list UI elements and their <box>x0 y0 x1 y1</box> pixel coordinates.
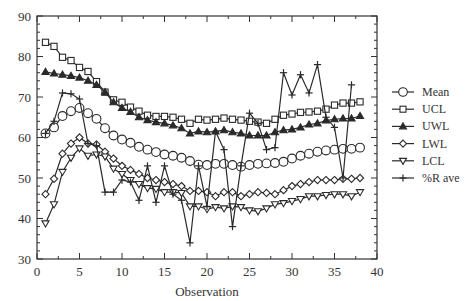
legend-item: UCL <box>392 102 446 116</box>
x-axis-title: Observation <box>175 284 239 299</box>
y-tick-label: 30 <box>18 252 31 267</box>
x-tick-label: 20 <box>201 264 214 279</box>
x-tick-label: 35 <box>328 264 341 279</box>
y-axis: 30405060708090 <box>18 9 377 267</box>
legend-label: Mean <box>422 85 449 99</box>
x-tick-label: 25 <box>243 264 256 279</box>
legend-label: UCL <box>422 102 446 116</box>
legend-item: LCL <box>392 154 445 168</box>
series-uwl <box>42 68 364 138</box>
y-tick-label: 50 <box>18 171 31 186</box>
x-tick-label: 30 <box>286 264 299 279</box>
plot-frame <box>37 16 377 259</box>
legend-item: %R ave <box>392 171 460 185</box>
control-chart: 30405060708090 0510152025303540 MeanUCLU… <box>0 0 465 301</box>
x-tick-label: 5 <box>76 264 83 279</box>
series-layer <box>41 39 364 246</box>
legend-label: LWL <box>422 137 447 151</box>
legend-label: LCL <box>422 154 445 168</box>
legend: MeanUCLUWLLWLLCL%R ave <box>392 85 460 185</box>
x-tick-label: 10 <box>116 264 129 279</box>
y-tick-label: 80 <box>18 49 31 64</box>
legend-item: LWL <box>392 137 447 151</box>
y-tick-label: 60 <box>18 130 31 145</box>
x-tick-label: 15 <box>158 264 171 279</box>
y-tick-label: 90 <box>18 9 31 24</box>
legend-label: UWL <box>422 119 449 133</box>
x-tick-label: 0 <box>34 264 41 279</box>
y-tick-label: 70 <box>18 90 31 105</box>
legend-label: %R ave <box>422 171 460 185</box>
plot-border <box>37 16 377 259</box>
x-tick-label: 40 <box>371 264 384 279</box>
legend-item: UWL <box>392 119 449 133</box>
legend-item: Mean <box>392 85 449 99</box>
y-tick-label: 40 <box>18 211 31 226</box>
